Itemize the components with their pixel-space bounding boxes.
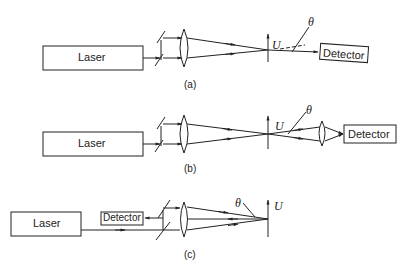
laser-label-c: Laser (33, 217, 61, 229)
panel-a-drawing (43, 27, 369, 70)
laser-label-a: Laser (78, 51, 106, 63)
object-label-a: U (272, 38, 281, 53)
caption-c: (c) (184, 249, 196, 260)
object-label-c: U (274, 199, 283, 214)
caption-b: (b) (184, 163, 196, 174)
angle-label-a: θ (308, 15, 314, 30)
object-label-b: U (275, 119, 284, 134)
laser-label-b: Laser (78, 137, 106, 149)
detector-label-c: Detector (103, 212, 141, 223)
caption-a: (a) (184, 79, 196, 90)
angle-label-c: θ (235, 196, 241, 211)
detector-label-b: Detector (348, 128, 390, 140)
optical-setup-figure: Laser Detector U θ (a) Laser Detector U … (0, 0, 413, 271)
angle-label-b: θ (306, 103, 312, 118)
panel-b-drawing (43, 112, 396, 156)
lens-a (180, 29, 188, 67)
